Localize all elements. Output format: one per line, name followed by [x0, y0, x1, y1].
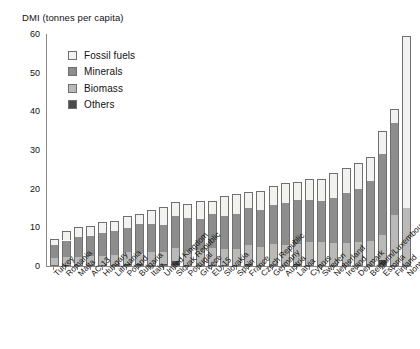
x-tick-label-wrap: Cyprus [308, 271, 309, 272]
x-tick-label: United Kingdom [162, 271, 169, 278]
x-tick-label-wrap: United Kingdom [162, 271, 163, 272]
x-tick-label: EU-15 [211, 271, 218, 278]
y-tick-label: 20 [0, 184, 47, 194]
legend-label-biomass: Biomass [84, 83, 123, 94]
bar-segment-minerals [317, 201, 326, 242]
bar-segment-fossil [293, 182, 302, 201]
x-tick-label-wrap: Italy [149, 271, 150, 272]
x-tick-label-wrap: Czech Republic [259, 271, 260, 272]
x-tick-label: Turkey [52, 271, 59, 278]
x-tick-label-wrap: Turkey [52, 271, 53, 272]
bar-segment-fossil [86, 226, 95, 236]
bar-segment-fossil [329, 173, 338, 199]
bar-segment-fossil [354, 163, 363, 190]
bar-segment-fossil [342, 168, 351, 193]
x-tick-label-wrap: Slovak Republic [174, 271, 175, 272]
x-tick-label-wrap: Belgium/Luxembourg [368, 271, 369, 272]
x-tick-label: Slovak Republic [174, 271, 181, 278]
bar-segment-minerals [98, 233, 107, 256]
bar-segment-minerals [342, 193, 351, 243]
x-tick-label: Sweden [320, 271, 327, 278]
bar-stack [329, 173, 338, 266]
x-tick-label: Denmark [357, 271, 364, 278]
x-tick-label-wrap: Norway [405, 271, 406, 272]
x-tick-label: Poland [125, 271, 132, 278]
x-tick-label: Portugal [186, 271, 193, 278]
bar-segment-minerals [366, 181, 375, 241]
x-tick-label: AC-13 [89, 271, 96, 278]
x-tick-label-wrap: Malta [76, 271, 77, 272]
chart-figure: DMI (tonnes per capita) 0102030405060 Tu… [0, 0, 420, 349]
bar-stack [50, 239, 59, 266]
bar-segment-fossil [281, 183, 290, 202]
y-tick-label: 0 [0, 261, 47, 271]
legend-item-minerals: Minerals [68, 64, 135, 81]
bar-segment-fossil [305, 179, 314, 199]
x-tick-label-wrap: Austria [283, 271, 284, 272]
x-tick-label-wrap: Finland [393, 271, 394, 272]
bar-segment-minerals [256, 210, 265, 246]
bar-segment-fossil [196, 201, 205, 219]
bar-segment-minerals [329, 198, 338, 243]
bar-segment-minerals [281, 203, 290, 245]
bar-segment-fossil [269, 186, 278, 204]
x-tick-label-wrap: Denmark [356, 271, 357, 272]
x-tick-label-wrap: France [247, 271, 248, 272]
x-tick-label-wrap: Netherland [332, 271, 333, 272]
bar-segment-fossil [74, 227, 83, 237]
bar-segment-minerals [305, 200, 314, 243]
x-tick-label-wrap: Latvia [295, 271, 296, 272]
legend-label-fossil-fuels: Fossil fuels [84, 50, 135, 61]
bar-segment-fossil [208, 201, 217, 214]
x-tick-label: Ireland [344, 271, 351, 278]
bar-segment-fossil [147, 210, 156, 225]
bar-segment-minerals [244, 208, 253, 245]
bar-segment-fossil [378, 131, 387, 154]
x-tick-label: Belgium/Luxembourg [369, 271, 376, 278]
x-tick-label-wrap: Hungary [101, 271, 102, 272]
legend-swatch-fossil-fuels [68, 51, 77, 60]
x-tick-label-wrap: Spain [235, 271, 236, 272]
x-tick-label: Italy [150, 271, 157, 278]
x-tick-label-wrap: Poland [125, 271, 126, 272]
bar-segment-fossil [50, 239, 59, 245]
legend-swatch-minerals [68, 67, 77, 76]
bar-segment-minerals [123, 228, 132, 252]
x-tick-label: Cyprus [308, 271, 315, 278]
bar-segment-fossil [402, 36, 411, 208]
bar-segment-minerals [378, 154, 387, 235]
bar-segment-fossil [135, 214, 144, 224]
x-tick-label: Czech Republic [259, 271, 266, 278]
y-axis-title: DMI (tonnes per capita) [22, 12, 124, 23]
legend-swatch-others [68, 100, 77, 109]
bar-segment-minerals [147, 224, 156, 252]
bar-segment-fossil [171, 202, 180, 216]
x-tick-label-wrap: EU-15 [210, 271, 211, 272]
x-tick-label: Lithuania [113, 271, 120, 278]
x-tick-label: Hungary [101, 271, 108, 278]
legend-item-fossil-fuels: Fossil fuels [68, 47, 135, 64]
x-tick-label: Latvia [296, 271, 303, 278]
x-tick-label: Romania [65, 271, 72, 278]
bar-segment-minerals [110, 231, 119, 255]
x-tick-label: Norway [405, 271, 412, 278]
bar-stack [305, 179, 314, 266]
bar-segment-minerals [159, 225, 168, 252]
x-tick-label-wrap: Ireland [344, 271, 345, 272]
y-tick-label: 10 [0, 222, 47, 232]
bar-stack [317, 179, 326, 266]
x-tick-label: Slovakia [223, 271, 230, 278]
legend-label-others: Others [84, 99, 115, 110]
x-tick-label-wrap: Romania [64, 271, 65, 272]
x-tick-label: Germany [271, 271, 278, 278]
bar-segment-minerals [354, 189, 363, 242]
bar-segment-fossil [123, 216, 132, 228]
x-tick-label: Austria [284, 271, 291, 278]
x-tick-label-wrap: Greece [198, 271, 199, 272]
x-tick-label: France [247, 271, 254, 278]
x-tick-label: Netherland [332, 271, 339, 278]
bar-segment-minerals [171, 216, 180, 248]
x-tick-label: Malta [77, 271, 84, 278]
y-tick-label: 50 [0, 68, 47, 78]
x-tick-label: Estonia [381, 271, 388, 278]
